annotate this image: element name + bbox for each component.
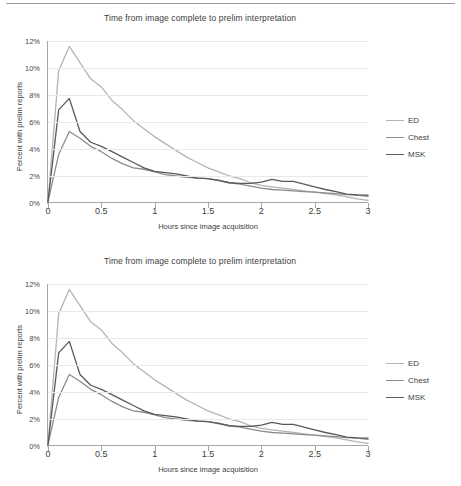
x-axis-title: Hours since image acquisition	[48, 222, 368, 231]
x-tick-label: 1	[152, 206, 157, 216]
x-axis-tick-labels: 00.511.522.53	[48, 206, 368, 220]
x-tick-label: 2	[259, 206, 264, 216]
y-tick-label: 12%	[25, 37, 40, 46]
legend-item-chest[interactable]: Chest	[386, 129, 458, 146]
y-tick-label: 0%	[29, 442, 40, 451]
y-tick-label: 8%	[29, 91, 40, 100]
legend-swatch-icon	[386, 380, 404, 381]
x-tick-label: 2	[259, 449, 264, 459]
chart-title: Time from image complete to prelim inter…	[0, 13, 400, 23]
gridline	[48, 311, 368, 312]
gridline	[48, 365, 368, 366]
y-tick-label: 12%	[25, 280, 40, 289]
x-tick-label: 0	[45, 206, 50, 216]
gridline	[48, 122, 368, 123]
chart-legend: EDChestMSK	[386, 112, 458, 163]
legend-item-msk[interactable]: MSK	[386, 146, 458, 163]
series-line-chest	[48, 374, 368, 444]
y-tick-label: 2%	[29, 172, 40, 181]
x-axis-title: Hours since image acquisition	[48, 465, 368, 474]
legend-label: MSK	[408, 150, 425, 159]
y-tick-label: 8%	[29, 334, 40, 343]
gridline	[48, 68, 368, 69]
legend-swatch-icon	[386, 137, 404, 138]
legend-item-msk[interactable]: MSK	[386, 389, 458, 406]
plot-area	[48, 41, 368, 203]
y-axis-title: Percent with prelim reports	[15, 295, 24, 445]
chart-figure-top: Time from image complete to prelim inter…	[0, 0, 461, 243]
y-tick-label: 2%	[29, 415, 40, 424]
x-tick-label: 1.5	[202, 206, 215, 216]
y-tick-label: 4%	[29, 145, 40, 154]
plot-area	[48, 284, 368, 446]
x-tick-label: 1	[152, 449, 157, 459]
legend-swatch-icon	[386, 397, 404, 398]
chart-title: Time from image complete to prelim inter…	[0, 256, 400, 266]
gridline	[48, 419, 368, 420]
y-axis-title: Percent with prelim reports	[15, 52, 24, 202]
gridline	[48, 95, 368, 96]
gridline	[48, 176, 368, 177]
legend-item-ed[interactable]: ED	[386, 355, 458, 372]
legend-label: ED	[408, 359, 419, 368]
legend-swatch-icon	[386, 363, 404, 364]
x-tick-label: 0.5	[95, 449, 108, 459]
y-tick-label: 0%	[29, 199, 40, 208]
legend-label: MSK	[408, 393, 425, 402]
y-tick-label: 6%	[29, 361, 40, 370]
legend-item-chest[interactable]: Chest	[386, 372, 458, 389]
y-tick-label: 4%	[29, 388, 40, 397]
legend-label: Chest	[408, 376, 429, 385]
x-tick-label: 3	[365, 206, 370, 216]
chart-figure-bottom: Time from image complete to prelim inter…	[0, 243, 461, 486]
x-axis-tick-labels: 00.511.522.53	[48, 449, 368, 463]
series-line-msk	[48, 98, 368, 201]
x-tick-label: 2.5	[308, 206, 321, 216]
legend-label: ED	[408, 116, 419, 125]
x-tick-label: 3	[365, 449, 370, 459]
legend-item-ed[interactable]: ED	[386, 112, 458, 129]
y-tick-label: 10%	[25, 307, 40, 316]
legend-label: Chest	[408, 133, 429, 142]
y-tick-label: 10%	[25, 64, 40, 73]
gridline	[48, 284, 368, 285]
series-line-chest	[48, 131, 368, 201]
y-tick-label: 6%	[29, 118, 40, 127]
legend-swatch-icon	[386, 154, 404, 155]
x-tick-label: 0	[45, 449, 50, 459]
chart-legend: EDChestMSK	[386, 355, 458, 406]
gridline	[48, 149, 368, 150]
gridline	[48, 392, 368, 393]
gridline	[48, 338, 368, 339]
x-tick-label: 0.5	[95, 206, 108, 216]
legend-swatch-icon	[386, 120, 404, 121]
x-tick-label: 1.5	[202, 449, 215, 459]
x-tick-label: 2.5	[308, 449, 321, 459]
series-line-msk	[48, 341, 368, 444]
gridline	[48, 41, 368, 42]
